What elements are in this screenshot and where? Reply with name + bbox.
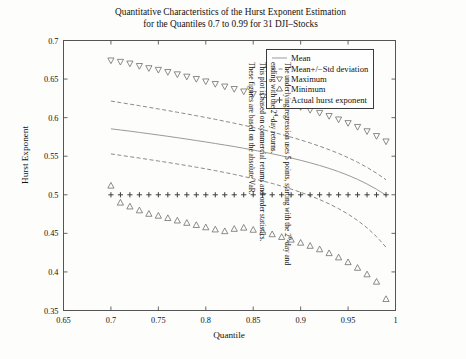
figure-caption: The underlying regression uses 5 points,… bbox=[246, 62, 295, 312]
svg-text:1: 1 bbox=[393, 316, 397, 325]
svg-text:0.5: 0.5 bbox=[48, 191, 58, 200]
svg-text:0.85: 0.85 bbox=[246, 316, 261, 325]
svg-text:0.95: 0.95 bbox=[341, 316, 356, 325]
caption-line-4: These figures are based on the absolute … bbox=[246, 62, 257, 312]
chart-figure: Quantitative Characteristics of the Hurs… bbox=[0, 0, 466, 359]
legend-label-actual-hurst: Actual hurst exponent bbox=[290, 95, 367, 105]
svg-text:0.6: 0.6 bbox=[48, 114, 58, 123]
caption-line-3: This plot is based on commercial returns… bbox=[256, 62, 267, 312]
svg-text:0.8: 0.8 bbox=[201, 316, 211, 325]
caption-line-1-post: -day and bbox=[283, 240, 292, 266]
caption-line-1: The underlying regression uses 5 points,… bbox=[281, 62, 295, 312]
svg-text:0.7: 0.7 bbox=[48, 37, 58, 46]
svg-text:0.65: 0.65 bbox=[44, 75, 59, 84]
legend-label-minimum: Minimum bbox=[290, 84, 325, 94]
svg-text:0.45: 0.45 bbox=[44, 229, 59, 238]
caption-line-1-pre: The underlying regression uses 5 points,… bbox=[283, 62, 292, 237]
svg-text:0.35: 0.35 bbox=[44, 307, 59, 316]
legend-label-std: Mean+/−Std deviation bbox=[290, 64, 368, 74]
svg-text:0.65: 0.65 bbox=[56, 316, 71, 325]
legend-label-maximum: Maximum bbox=[290, 74, 327, 84]
svg-text:0.55: 0.55 bbox=[44, 152, 59, 161]
svg-text:0.7: 0.7 bbox=[106, 316, 116, 325]
caption-line-2: ending with the 24-day returns. bbox=[267, 62, 281, 312]
svg-text:0.75: 0.75 bbox=[151, 316, 166, 325]
svg-text:0.9: 0.9 bbox=[295, 316, 305, 325]
caption-line-2-post: -day returns. bbox=[268, 116, 277, 153]
svg-text:0.4: 0.4 bbox=[48, 268, 59, 277]
caption-line-2-pre: ending with the 2 bbox=[268, 62, 277, 114]
plot-canvas: 0.650.70.750.80.850.90.9510.350.40.450.5… bbox=[0, 0, 466, 359]
